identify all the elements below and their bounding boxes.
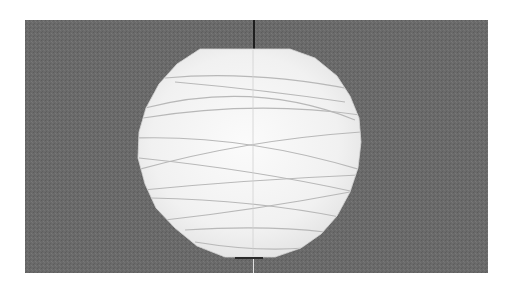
bottom-cord [253,259,254,273]
hanging-cord [253,20,255,50]
lantern-photo [25,20,488,273]
bottom-fitting [235,257,263,259]
lantern-illustration [25,20,488,273]
